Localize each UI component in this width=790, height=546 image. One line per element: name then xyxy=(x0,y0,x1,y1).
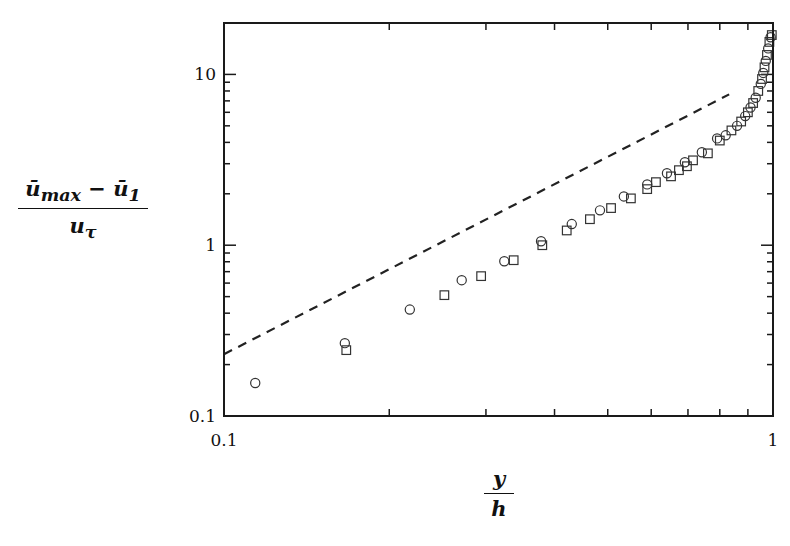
circle-marker xyxy=(595,206,604,215)
x-tick-label: 1 xyxy=(768,430,779,450)
square-marker xyxy=(727,126,736,135)
axis-ticks xyxy=(224,23,773,416)
chart-canvas: 0.110.1110 xyxy=(0,0,790,546)
circle-marker xyxy=(712,134,721,143)
circle-marker xyxy=(500,257,509,266)
circle-marker xyxy=(251,378,260,387)
x-axis-label-numerator: y xyxy=(484,466,514,494)
y-axis-label-numerator: ūmax − ū1 xyxy=(18,176,148,209)
circle-marker xyxy=(567,219,576,228)
square-marker xyxy=(607,204,616,213)
circle-marker xyxy=(751,93,760,102)
tick-labels: 0.110.1110 xyxy=(189,64,778,450)
circle-marker xyxy=(405,305,414,314)
x-axis-label: y h xyxy=(484,466,514,521)
square-marker xyxy=(675,166,684,175)
circle-marker xyxy=(457,276,466,285)
x-axis-label-denominator: h xyxy=(484,494,514,521)
square-marker xyxy=(562,226,571,235)
y-axis-label-denominator: uτ xyxy=(18,209,148,242)
square-marker xyxy=(689,156,698,165)
dashed-line xyxy=(224,94,729,354)
square-marker xyxy=(509,256,518,265)
square-marker xyxy=(652,178,661,187)
y-tick-label: 1 xyxy=(205,235,216,255)
plot-frame xyxy=(224,23,773,416)
y-tick-label: 0.1 xyxy=(189,406,216,426)
square-marker xyxy=(586,215,595,224)
data-markers xyxy=(251,31,776,388)
y-axis-label: ūmax − ū1 uτ xyxy=(18,176,148,242)
square-marker xyxy=(440,291,449,300)
y-tick-label: 10 xyxy=(194,64,216,84)
square-marker xyxy=(477,272,486,281)
x-tick-label: 0.1 xyxy=(210,430,237,450)
dashed-reference-line xyxy=(224,94,729,354)
